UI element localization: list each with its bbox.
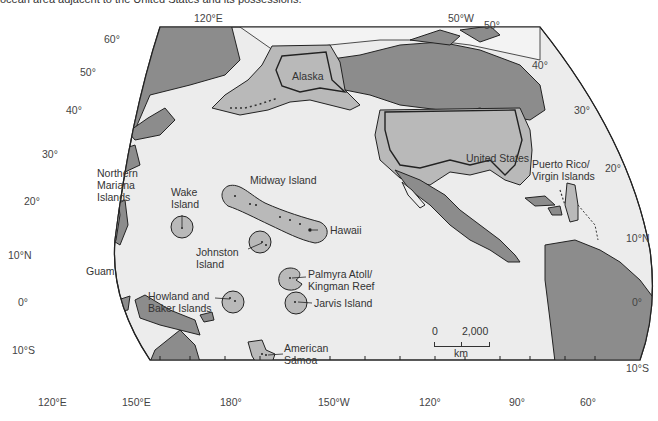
left-lat-10s: 10°S bbox=[12, 344, 35, 356]
right-lat-10s: 10°S bbox=[626, 362, 649, 374]
right-lat-10n: 10°N bbox=[626, 232, 649, 244]
right-lat-50: 50° bbox=[484, 19, 500, 31]
right-lat-30: 30° bbox=[574, 104, 590, 116]
left-lat-30: 30° bbox=[42, 148, 58, 160]
label-midway: Midway Island bbox=[250, 174, 317, 186]
left-lat-60: 60° bbox=[104, 33, 120, 45]
label-johnston: Johnston Island bbox=[196, 246, 239, 270]
label-hawaii: Hawaii bbox=[330, 224, 362, 236]
left-lat-20: 20° bbox=[24, 195, 40, 207]
right-lat-0: 0° bbox=[632, 296, 642, 308]
left-lat-40: 40° bbox=[66, 104, 82, 116]
label-northern-mariana: Northern Mariana Islands bbox=[97, 167, 138, 203]
left-lat-10n: 10°N bbox=[8, 249, 31, 261]
scale-bar: 0 2,000 km bbox=[432, 325, 492, 365]
map-canvas bbox=[0, 0, 658, 421]
jarvis-island-eez bbox=[285, 292, 307, 314]
howland-baker-eez bbox=[222, 291, 244, 313]
bottom-lon-180: 180° bbox=[220, 396, 242, 408]
scale-end: 2,000 bbox=[462, 325, 488, 337]
bottom-lon-150e: 150°E bbox=[122, 396, 151, 408]
bottom-lon-120e: 120°E bbox=[38, 396, 67, 408]
bottom-lon-90: 90° bbox=[509, 396, 525, 408]
label-palmyra: Palmyra Atoll/ Kingman Reef bbox=[308, 268, 375, 292]
top-label-50w: 50°W bbox=[448, 12, 474, 24]
scale-start: 0 bbox=[432, 325, 438, 337]
label-guam: Guam bbox=[86, 265, 115, 277]
label-united-states: United States bbox=[466, 152, 529, 164]
bottom-lon-120: 120° bbox=[419, 396, 441, 408]
label-wake: Wake Island bbox=[171, 186, 199, 210]
label-alaska: Alaska bbox=[292, 70, 324, 82]
bottom-lon-60: 60° bbox=[580, 396, 596, 408]
label-jarvis: Jarvis Island bbox=[314, 297, 372, 309]
label-puerto-rico: Puerto Rico/ Virgin Islands bbox=[532, 158, 595, 182]
bottom-lon-150w: 150°W bbox=[318, 396, 350, 408]
scale-mid-tick bbox=[461, 342, 462, 346]
left-lat-0: 0° bbox=[18, 296, 28, 308]
right-lat-40: 40° bbox=[532, 59, 548, 71]
johnston-island-eez bbox=[249, 231, 271, 253]
label-american-samoa: American Samoa bbox=[284, 342, 328, 366]
label-howland-baker: Howland and Baker Islands bbox=[148, 290, 212, 314]
scale-unit: km bbox=[454, 347, 468, 359]
right-lat-20: 20° bbox=[605, 162, 621, 174]
left-lat-50: 50° bbox=[80, 66, 96, 78]
top-label-120e: 120°E bbox=[194, 12, 223, 24]
